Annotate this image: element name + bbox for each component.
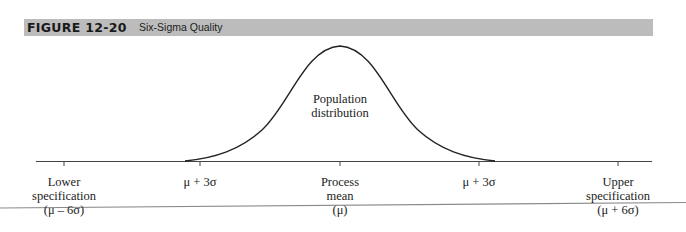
- lower-spec-label: Lower specification (μ – 6σ): [24, 175, 104, 217]
- mean-label: Process mean (μ): [300, 175, 380, 217]
- upper-spec-line1: Upper: [578, 175, 658, 189]
- lower-spec-line2: specification: [24, 189, 104, 203]
- left-sigma-label: μ + 3σ: [160, 175, 240, 189]
- lower-spec-line3: (μ – 6σ): [24, 203, 104, 217]
- curve-label-line1: Population: [300, 92, 380, 106]
- right-sigma-label: μ + 3σ: [439, 175, 519, 189]
- curve-label: Population distribution: [300, 92, 380, 120]
- upper-spec-line2: specification: [578, 189, 658, 203]
- lower-spec-line1: Lower: [24, 175, 104, 189]
- upper-spec-label: Upper specification (μ + 6σ): [578, 175, 658, 217]
- mean-line1: Process: [300, 175, 380, 189]
- right-sigma-line1: μ + 3σ: [439, 175, 519, 189]
- upper-spec-line3: (μ + 6σ): [578, 203, 658, 217]
- left-sigma-line1: μ + 3σ: [160, 175, 240, 189]
- mean-line2: mean: [300, 189, 380, 203]
- curve-label-line2: distribution: [300, 106, 380, 120]
- mean-line3: (μ): [300, 203, 380, 217]
